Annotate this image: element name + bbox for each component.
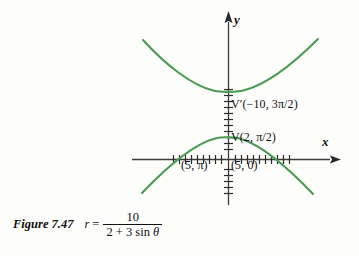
vertex-lower-label: V(2, π/2): [231, 130, 276, 145]
fraction-numerator: 10: [121, 210, 146, 224]
point-left-label: (5, π): [181, 158, 208, 173]
figure-caption: Figure 7.47 r = 10 2 + 3 sin θ: [13, 210, 162, 239]
figure-number: Figure 7.47: [13, 217, 73, 232]
y-axis-label: y: [234, 12, 240, 28]
fraction-denominator: 2 + 3 sin θ: [103, 225, 162, 239]
equation-variable: r: [84, 217, 89, 232]
theta-symbol: θ: [153, 225, 159, 239]
equation-equals-sign: =: [92, 217, 99, 232]
figure-container: y x V′(−10, 3π/2) V(2, π/2) (5, π) (5, 0…: [0, 0, 359, 256]
polar-equation: r = 10 2 + 3 sin θ: [84, 210, 162, 239]
x-axis-arrowhead: [330, 156, 341, 164]
equation-fraction: 10 2 + 3 sin θ: [103, 210, 162, 239]
denominator-text: 2 + 3 sin: [106, 225, 153, 239]
hyperbola-lower-branch: [142, 137, 313, 194]
point-right-label: (5, 0): [231, 158, 258, 173]
hyperbola-upper-branch: [143, 39, 318, 92]
vertex-upper-label: V′(−10, 3π/2): [231, 97, 298, 112]
y-axis-arrowhead: [225, 11, 233, 23]
x-axis-label: x: [322, 134, 329, 150]
